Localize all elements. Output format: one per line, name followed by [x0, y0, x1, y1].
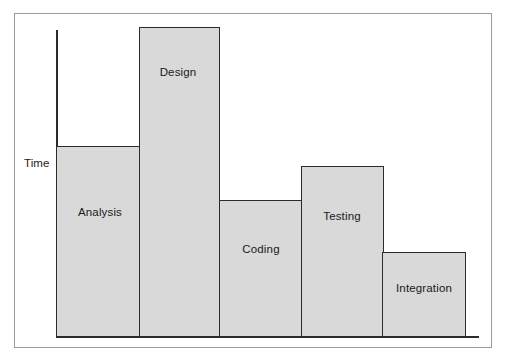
y-axis-title: Time — [24, 157, 50, 169]
chart-screenshot: Time AnalysisDesignCodingTestingIntegrat… — [0, 0, 507, 363]
plot-area: Time AnalysisDesignCodingTestingIntegrat… — [0, 0, 507, 363]
bar-label-integration: Integration — [396, 282, 452, 294]
bar-label-design: Design — [160, 66, 197, 78]
bar-analysis — [56, 146, 140, 337]
bar-coding — [219, 200, 303, 337]
bar-label-coding: Coding — [242, 243, 279, 255]
bar-label-testing: Testing — [323, 210, 361, 222]
bar-integration — [382, 252, 466, 337]
bar-testing — [301, 166, 384, 337]
bar-label-analysis: Analysis — [78, 206, 122, 218]
